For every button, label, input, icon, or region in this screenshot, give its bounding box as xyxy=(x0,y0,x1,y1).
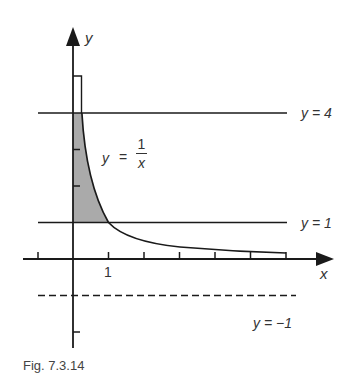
label-y-equals-minus-1: y = −1 xyxy=(253,316,292,330)
fraction-denominator: x xyxy=(138,156,145,170)
shaded-region xyxy=(73,113,109,223)
figure-caption: Fig. 7.3.14 xyxy=(23,358,84,373)
curve-label-lhs: y xyxy=(102,151,109,165)
x-axis-arrow-icon xyxy=(316,252,334,266)
x-axis-label: x xyxy=(320,266,328,281)
label-y-equals-4: y = 4 xyxy=(301,106,332,120)
curve-one-over-x xyxy=(82,113,286,253)
figure-canvas xyxy=(0,0,361,386)
x-ticks xyxy=(38,252,286,259)
fraction-numerator: 1 xyxy=(138,137,146,151)
y-axis-label: y xyxy=(85,30,93,45)
approx-rectangle xyxy=(73,76,82,113)
x-tick-label-1: 1 xyxy=(104,265,112,279)
curve-label-fraction: 1 x xyxy=(136,137,147,170)
y-axis-arrow-icon xyxy=(66,27,80,46)
curve-label-eq: = xyxy=(119,150,127,164)
fraction-bar xyxy=(136,153,147,154)
label-y-equals-1: y = 1 xyxy=(301,216,332,230)
